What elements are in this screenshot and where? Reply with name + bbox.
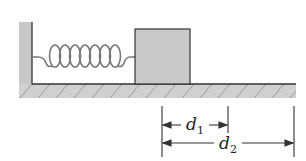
svg-text:1: 1 [197,124,204,137]
svg-text:2: 2 [230,143,237,156]
svg-text:d: d [186,114,197,134]
label-d2: d 2 [219,133,237,156]
floor [19,84,296,98]
svg-text:d: d [219,133,230,153]
label-d1: d 1 [186,114,204,137]
spring [32,45,135,67]
block [135,29,190,84]
spring-block-diagram: d 1 d 2 [0,0,306,161]
